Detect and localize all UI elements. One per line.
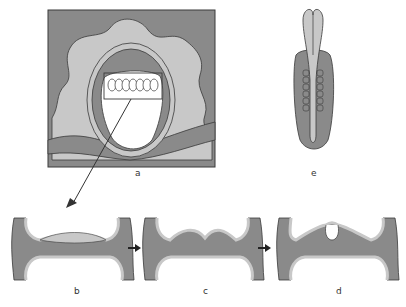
label-d: d	[336, 286, 342, 296]
label-c: c	[203, 286, 208, 296]
panel-c: c	[143, 218, 264, 296]
panel-b: b	[12, 218, 134, 296]
panel-d: d	[277, 218, 399, 296]
label-a: a	[135, 168, 141, 178]
label-b: b	[74, 286, 80, 296]
panel-e: e	[294, 9, 334, 178]
diagram-canvas: a e b c	[0, 0, 406, 307]
panel-a: a	[48, 10, 215, 178]
label-e: e	[311, 168, 317, 178]
